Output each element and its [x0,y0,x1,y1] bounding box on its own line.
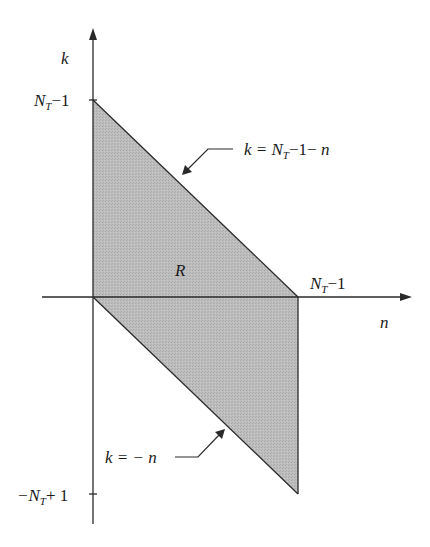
n-right-tick-label: NT−1 [310,275,346,295]
eq-mid: = N [252,140,283,159]
lower-annotation-leader [175,434,220,457]
lower-line-equation: k = − n [105,449,157,466]
eq-var: k [244,140,252,159]
tick-main: N [34,91,45,110]
k-axis-arrow-icon [89,28,97,40]
diagram-canvas [0,0,430,547]
upper-annotation-leader [187,149,233,170]
tick-main: N [310,274,321,293]
n-axis-arrow-icon [400,293,412,301]
tick-rest: + 1 [46,486,68,505]
tick-main: −N [17,486,40,505]
n-axis-label: n [380,314,389,331]
k-bottom-tick-label: −NT+ 1 [17,487,68,507]
k-top-tick-label: NT−1 [34,92,70,112]
region-label: R [175,262,185,279]
tick-rest: −1 [51,91,69,110]
eq-rest: −1− [289,140,321,159]
k-axis-label: k [61,50,69,67]
tick-rest: −1 [327,274,345,293]
eq-n: n [321,140,330,159]
upper-line-equation: k = NT−1− n [244,141,329,161]
